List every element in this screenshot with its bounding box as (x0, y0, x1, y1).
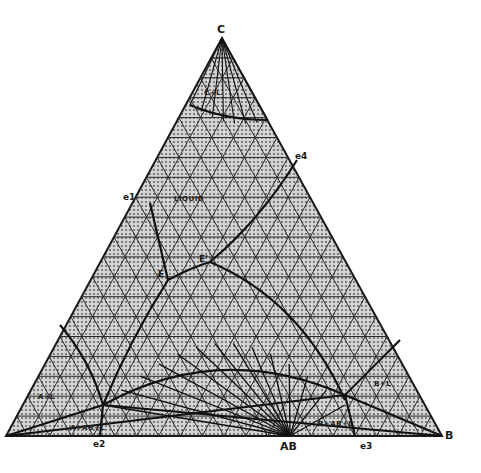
point-e3-label: e3 (360, 442, 372, 451)
point-e4-label: e4 (295, 152, 307, 161)
point-e-label: E (158, 270, 164, 279)
region-b-liquid-label: B+L (374, 381, 391, 388)
vertex-c-label: C (217, 24, 225, 35)
point-e2-label: e2 (93, 440, 105, 449)
region-b-ab-liquid-label: B+AB+L (318, 421, 353, 428)
region-liquid-label: LIQUID (174, 196, 204, 203)
ternary-diagram (0, 0, 481, 473)
point-e1-label: e1 (123, 193, 135, 202)
point-e-prime-label: E' (199, 255, 208, 264)
region-c-liquid-label: C+L (204, 90, 221, 97)
vertex-b-label: B (445, 430, 453, 441)
region-a-ab-liquid-label: A+AB+L (70, 425, 105, 432)
compound-ab-label: AB (280, 441, 297, 452)
region-a-liquid-label: A+L (38, 394, 55, 401)
